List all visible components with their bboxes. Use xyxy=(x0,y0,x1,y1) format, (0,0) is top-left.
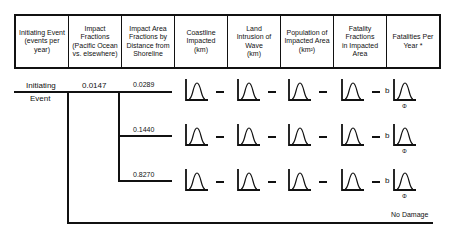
distribution-icon xyxy=(393,168,417,192)
connector-dash xyxy=(319,181,327,183)
distribution-icon xyxy=(288,168,312,192)
connector-dash xyxy=(319,91,327,93)
header-impact-area-fractions: Impact Area Fractions by Distance from S… xyxy=(122,16,175,67)
connector-dash xyxy=(216,91,224,93)
distribution-icon xyxy=(237,78,261,102)
branch-line-3 xyxy=(118,180,172,182)
initiating-label: Initiating xyxy=(26,81,56,90)
impact-fraction-value: 0.0147 xyxy=(82,81,106,90)
distribution-icon xyxy=(393,78,417,102)
distribution-icon xyxy=(185,168,209,192)
initiating-event-line xyxy=(14,91,172,93)
distribution-icon xyxy=(237,123,261,147)
header-fatality-fractions: Fatality Fractions in Impacted Area xyxy=(334,16,387,67)
distribution-icon xyxy=(288,123,312,147)
header-initiating-event: Initiating Event (events per year) xyxy=(16,16,69,67)
connector-dash xyxy=(319,136,327,138)
phi-symbol: Φ xyxy=(402,103,407,109)
header-fatalities-per-year: Fatalities Per Year * xyxy=(387,16,439,67)
distribution-icon xyxy=(341,78,365,102)
header-population: Population of Impacted Area (km²) xyxy=(281,16,334,67)
distribution-icon xyxy=(185,78,209,102)
branch-fraction-1: 0.0289 xyxy=(133,81,154,88)
connector-dash xyxy=(268,91,276,93)
distribution-icon xyxy=(185,123,209,147)
connector-dash xyxy=(216,181,224,183)
distribution-icon xyxy=(341,123,365,147)
distribution-icon xyxy=(341,168,365,192)
no-damage-vertical xyxy=(67,91,69,223)
distribution-icon xyxy=(288,78,312,102)
b-symbol: b xyxy=(385,176,389,185)
event-label: Event xyxy=(30,94,50,103)
connector-dash xyxy=(372,181,380,183)
phi-symbol: Φ xyxy=(402,193,407,199)
header-impact-fractions: Impact Fractions (Pacific Ocean vs. else… xyxy=(69,16,122,67)
connector-dash xyxy=(372,136,380,138)
connector-dash xyxy=(216,136,224,138)
connector-dash xyxy=(268,136,276,138)
header-row: Initiating Event (events per year) Impac… xyxy=(14,14,441,69)
b-symbol: b xyxy=(385,86,389,95)
connector-dash xyxy=(372,91,380,93)
no-damage-label: No Damage xyxy=(391,211,428,218)
no-damage-line xyxy=(67,222,433,224)
connector-dash xyxy=(268,181,276,183)
branch-line-2 xyxy=(118,135,172,137)
distribution-icon xyxy=(393,123,417,147)
header-land-intrusion: Land Intrusion of Wave (km) xyxy=(228,16,281,67)
branch-fraction-3: 0.8270 xyxy=(133,171,154,178)
branch-fraction-2: 0.1440 xyxy=(133,126,154,133)
distribution-icon xyxy=(237,168,261,192)
phi-symbol: Φ xyxy=(402,148,407,154)
header-coastline-impacted: Coastline Impacted (km) xyxy=(175,16,228,67)
b-symbol: b xyxy=(385,131,389,140)
